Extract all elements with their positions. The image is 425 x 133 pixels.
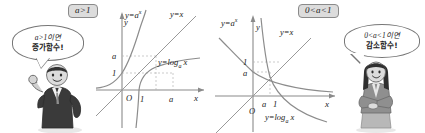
svg-text:a: a: [243, 68, 247, 78]
panel-case-0-less-a-less-1: 0<a<1 0<a<1이면 감소함수!: [213, 0, 425, 133]
panel-case-a-greater-than-1: a>1 a>1이면 증가함수!: [0, 0, 212, 133]
curve-label-logarithm: y=loga x: [158, 57, 187, 69]
badge-case-label: a>1: [68, 4, 98, 18]
svg-text:1: 1: [140, 94, 144, 104]
svg-text:1: 1: [273, 99, 277, 109]
speech-bubble-increasing: a>1이면 증가함수!: [12, 25, 84, 61]
bubble-line-2: 증가함수!: [32, 43, 63, 52]
svg-text:1: 1: [112, 68, 116, 78]
figure-root: a>1 a>1이면 증가함수!: [0, 0, 425, 133]
bubble-line-1: a>1이면: [35, 34, 62, 43]
female-teacher-illustration: [349, 58, 407, 133]
bubble-line-1: 0<a<1이면: [364, 32, 399, 41]
svg-text:1: 1: [243, 57, 247, 67]
svg-text:x: x: [193, 93, 198, 103]
graph-increasing: y x O 1 a 1 a: [96, 2, 212, 130]
svg-text:x: x: [324, 99, 329, 109]
bubble-line-2: 감소함수!: [366, 41, 397, 50]
svg-text:a: a: [169, 94, 173, 104]
svg-text:y: y: [255, 22, 260, 32]
svg-text:O: O: [249, 106, 255, 116]
curve-label-identity: y=x: [170, 9, 183, 19]
curve-label-exponential: y=ax: [221, 17, 237, 28]
curve-label-logarithm: y=loga x: [265, 112, 294, 124]
curve-label-identity: y=x: [280, 27, 293, 37]
svg-text:O: O: [126, 93, 132, 103]
svg-text:a: a: [262, 99, 266, 109]
svg-text:a: a: [112, 51, 116, 61]
curve-label-exponential: y=ax: [125, 9, 141, 20]
male-teacher-illustration: [26, 62, 88, 133]
